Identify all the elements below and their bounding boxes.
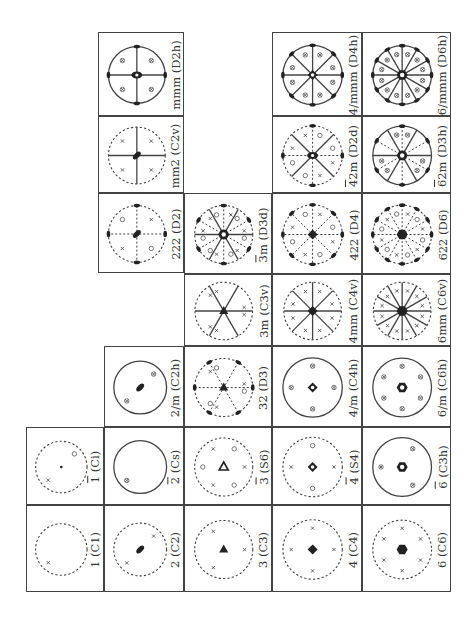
point-group-label: 3 (S6) [256,449,270,484]
point-group-label: 4mm (C4v) [346,279,360,343]
point-group-label: mm2 (C2v) [168,123,182,187]
point-group-label: 3m (C3v) [256,284,270,337]
point-group-cell-d2d: 42m (D2d) [272,116,362,193]
point-group-label: 4 (S4) [346,449,360,484]
point-group-cell-d3d: 3m (D3d) [184,193,272,274]
point-group-label: 222 (D2) [168,208,182,259]
point-group-label: 6 (C3h) [435,445,449,488]
point-group-label: 2 (C2) [168,531,182,567]
point-group-cell-c3v: 3m (C3v) [184,274,272,346]
point-group-cell-d2: 222 (D2) [98,193,184,273]
point-group-cell-c2: 2 (C2) [104,505,184,592]
point-group-cell-c1: 1 (C1) [26,505,104,592]
point-group-label: 422 (D4) [346,209,360,260]
point-group-label: 6/mmm (D6h) [435,35,449,115]
point-group-cell-d3h: 62m (D3h) [362,116,451,193]
point-group-label: 32 (D3) [256,366,270,410]
point-group-cell-c6: 6 (C6) [362,505,451,592]
point-group-cell-s4: 4 (S4) [272,427,362,505]
point-group-cell-c6v: 6mm (C6v) [362,274,451,346]
point-group-label: 6/m (C6h) [435,358,449,416]
point-group-cell-s6: 3 (S6) [184,427,272,505]
point-group-label: 42m (D2d) [346,124,360,186]
point-group-cell-d2h: mmm (D2h) [98,32,184,116]
point-group-cell-d3: 32 (D3) [184,346,272,427]
point-group-cell-c2v: mm2 (C2v) [98,116,184,193]
point-group-cell-c4v: 4mm (C4v) [272,274,362,346]
point-group-cell-c4h: 4/m (C4h) [272,346,362,427]
point-group-label: 622 (D6) [435,209,449,260]
point-group-label: 6mm (C6v) [435,279,449,343]
point-group-label: 4 (C4) [346,531,360,567]
point-group-cell-c2h: 2/m (C2h) [104,346,184,427]
point-group-cell-c6h: 6/m (C6h) [362,346,451,427]
point-group-cell-d4h: 4/mmm (D4h) [272,32,362,116]
point-group-cell-ci: 1 (Ci) [26,427,104,505]
point-group-label: 1 (Ci) [88,451,102,483]
point-group-label: 2/m (C2h) [168,358,182,416]
point-group-label: 3m (D3d) [256,207,270,262]
point-group-cell-d6h: 6/mmm (D6h) [362,32,451,116]
point-group-cell-c3: 3 (C3) [184,505,272,592]
point-group-cell-cs: 2 (Cs) [104,427,184,505]
point-group-label: 62m (D3h) [435,124,449,186]
point-group-cell-c4: 4 (C4) [272,505,362,592]
point-group-label: 4/m (C4h) [346,358,360,416]
point-group-cell-c3h: 6 (C3h) [362,427,451,505]
point-group-label: 2 (Cs) [168,450,182,485]
point-group-label: 3 (C3) [256,531,270,567]
point-group-label: 6 (C6) [435,531,449,567]
point-group-label: 1 (C1) [88,531,102,567]
point-group-label: mmm (D2h) [168,40,182,109]
point-group-label: 4/mmm (D4h) [346,35,360,115]
point-group-cell-d6: 622 (D6) [362,193,451,274]
point-group-cell-d4: 422 (D4) [272,193,362,274]
